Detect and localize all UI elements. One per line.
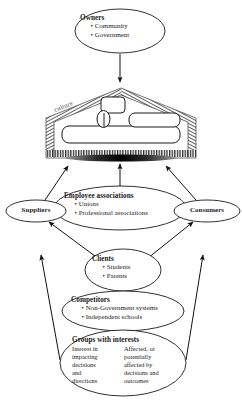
node-groups-title: Groups with interests <box>72 336 184 344</box>
node-owners-item-1: • Government <box>80 31 168 39</box>
node-clients[interactable]: Clients • Students • Parents <box>92 255 172 280</box>
node-employee-associations-title: Employee associations <box>64 192 192 200</box>
bullet-icon: • <box>92 272 105 280</box>
bullet-icon: • <box>92 263 105 271</box>
bullet-icon: • <box>71 304 84 312</box>
node-suppliers-label: Suppliers <box>22 206 51 213</box>
node-employee-associations[interactable]: Employee associations • Unions • Profess… <box>64 192 192 217</box>
node-owners[interactable]: Owners • Community • Government <box>80 14 168 39</box>
node-owners-title: Owners <box>80 14 168 22</box>
bullet-icon: • <box>80 22 93 30</box>
diagram-canvas: culture <box>0 0 242 404</box>
bullet-icon: • <box>64 200 77 208</box>
bullet-icon: • <box>80 31 93 39</box>
node-competitors-item-1: • Independent schools <box>71 313 191 321</box>
node-consumers-label: Consumers <box>190 206 224 213</box>
node-competitors-title: Competitors <box>71 296 191 304</box>
node-suppliers[interactable]: Suppliers <box>6 206 66 213</box>
node-groups-column-0: Interest in impacting decisions and dire… <box>72 345 116 385</box>
bullet-icon: • <box>64 209 77 217</box>
node-clients-item-1: • Parents <box>92 272 172 280</box>
node-competitors[interactable]: Competitors • Non-Government systems • I… <box>71 296 191 321</box>
node-clients-item-0: • Students <box>92 263 172 271</box>
arrow-groups-to-suppliers <box>41 255 60 360</box>
node-clients-title: Clients <box>92 255 172 263</box>
node-employee-associations-item-1: • Professional associations <box>64 209 192 217</box>
node-owners-item-0: • Community <box>80 22 168 30</box>
bullet-icon: • <box>71 313 84 321</box>
node-groups-column-1: Affected, or potentially affected by dec… <box>124 345 182 385</box>
node-groups-with-interests[interactable]: Groups with interests Interest in impact… <box>72 336 184 385</box>
node-employee-associations-item-0: • Unions <box>64 200 192 208</box>
node-competitors-item-0: • Non-Government systems <box>71 304 191 312</box>
organisation-structure <box>62 97 180 143</box>
